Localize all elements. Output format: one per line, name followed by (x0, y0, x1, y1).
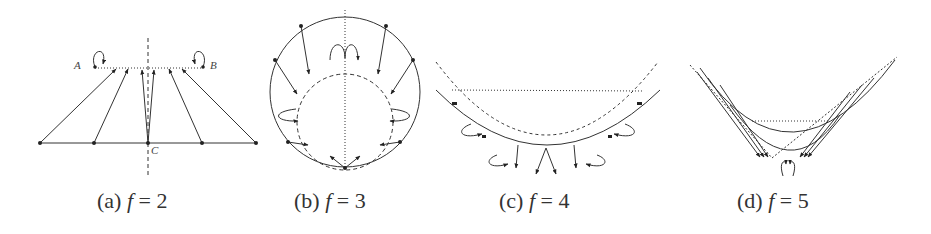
caption-b-prefix: (b) (294, 188, 320, 213)
loop-B (194, 51, 204, 67)
panel-c-diagram (436, 62, 660, 174)
dashed-curve (436, 62, 658, 135)
dotted-chord (452, 90, 644, 91)
label-C: C (151, 144, 159, 156)
loop-A (93, 51, 103, 67)
caption-a: (a) f = 2 (97, 188, 167, 214)
caption-b: (b) f = 3 (294, 188, 366, 214)
caption-b-var: f (325, 188, 331, 213)
caption-a-var: f (127, 188, 133, 213)
dashed-v (690, 57, 897, 158)
panel-a-diagram: A B C (38, 38, 258, 175)
caption-c-prefix: (c) (499, 188, 523, 213)
panel-d-diagram (690, 57, 897, 176)
caption-c-var: f (529, 188, 535, 213)
caption-d-prefix: (d) (737, 188, 763, 213)
caption-d-eq: = 5 (780, 188, 809, 213)
inner-curve (730, 105, 840, 150)
caption-d-var: f (768, 188, 774, 213)
solid-curve (436, 90, 660, 145)
caption-c: (c) f = 4 (499, 188, 569, 214)
panel-b-diagram (270, 10, 420, 170)
caption-d: (d) f = 5 (737, 188, 809, 214)
label-A: A (73, 59, 81, 71)
caption-a-prefix: (a) (97, 188, 121, 213)
label-B: B (210, 59, 217, 71)
caption-b-eq: = 3 (337, 188, 366, 213)
caption-c-eq: = 4 (541, 188, 570, 213)
caption-a-eq: = 2 (139, 188, 168, 213)
